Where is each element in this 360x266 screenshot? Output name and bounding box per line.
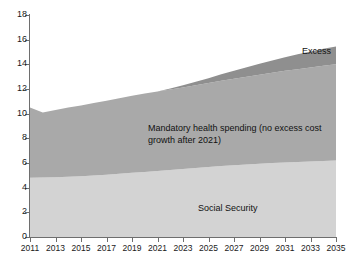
x-tick-label: 2013 xyxy=(46,244,65,253)
x-tick-label: 2021 xyxy=(148,244,167,253)
y-tick-label: 6 xyxy=(22,158,27,167)
x-tick-mark xyxy=(285,238,286,242)
y-tick-label: 2 xyxy=(22,207,27,216)
y-tick-label: 4 xyxy=(22,183,27,192)
x-tick-mark xyxy=(56,238,57,242)
y-tick-label: 14 xyxy=(17,59,27,68)
x-tick-label: 2017 xyxy=(97,244,116,253)
x-tick-mark xyxy=(132,238,133,242)
x-tick-label: 2027 xyxy=(225,244,244,253)
x-tick-mark xyxy=(311,238,312,242)
x-tick-mark xyxy=(234,238,235,242)
excess-label: Excess xyxy=(302,45,331,57)
social-security-label: Social Security xyxy=(198,202,258,214)
mandatory-health-spending-label: Mandatory health spending (no excess cos… xyxy=(148,122,322,146)
y-tick-label: 0 xyxy=(22,232,27,241)
y-tick-label: 10 xyxy=(17,109,27,118)
x-tick-label: 2025 xyxy=(199,244,218,253)
y-tick-label: 16 xyxy=(17,35,27,44)
x-tick-label: 2033 xyxy=(301,244,320,253)
x-tick-mark xyxy=(260,238,261,242)
x-tick-label: 2029 xyxy=(250,244,269,253)
x-tick-mark xyxy=(107,238,108,242)
y-tick-label: 18 xyxy=(17,10,27,19)
x-tick-label: 2011 xyxy=(21,244,39,253)
y-tick-label: 8 xyxy=(22,133,27,142)
x-tick-mark xyxy=(81,238,82,242)
x-tick-label: 2035 xyxy=(327,244,346,253)
x-tick-mark xyxy=(336,238,337,242)
x-tick-mark xyxy=(209,238,210,242)
x-tick-mark xyxy=(30,238,31,242)
x-tick-mark xyxy=(183,238,184,242)
x-tick-label: 2019 xyxy=(123,244,142,253)
y-axis-line xyxy=(29,14,30,238)
y-tick-label: 12 xyxy=(17,84,27,93)
x-tick-mark xyxy=(158,238,159,242)
x-tick-label: 2023 xyxy=(174,244,193,253)
x-tick-label: 2015 xyxy=(72,244,91,253)
x-tick-label: 2031 xyxy=(276,244,295,253)
stacked-area-chart: 024681012141618 201120132015201720192021… xyxy=(0,0,360,266)
